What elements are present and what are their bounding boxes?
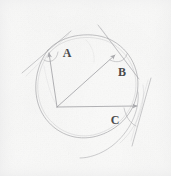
geometry-figure <box>0 0 171 176</box>
sketch-canvas: A B C <box>0 0 171 176</box>
vector-to-B <box>57 55 115 107</box>
vector-to-C <box>57 106 137 107</box>
angle-label-B: B <box>115 66 129 78</box>
angle-label-C: C <box>108 114 122 126</box>
circle-outline <box>36 35 138 138</box>
angle-arc-A <box>44 52 58 62</box>
tangent-line-at-C <box>131 78 151 146</box>
angle-label-A: A <box>60 47 74 59</box>
angle-arc-B <box>110 54 127 62</box>
